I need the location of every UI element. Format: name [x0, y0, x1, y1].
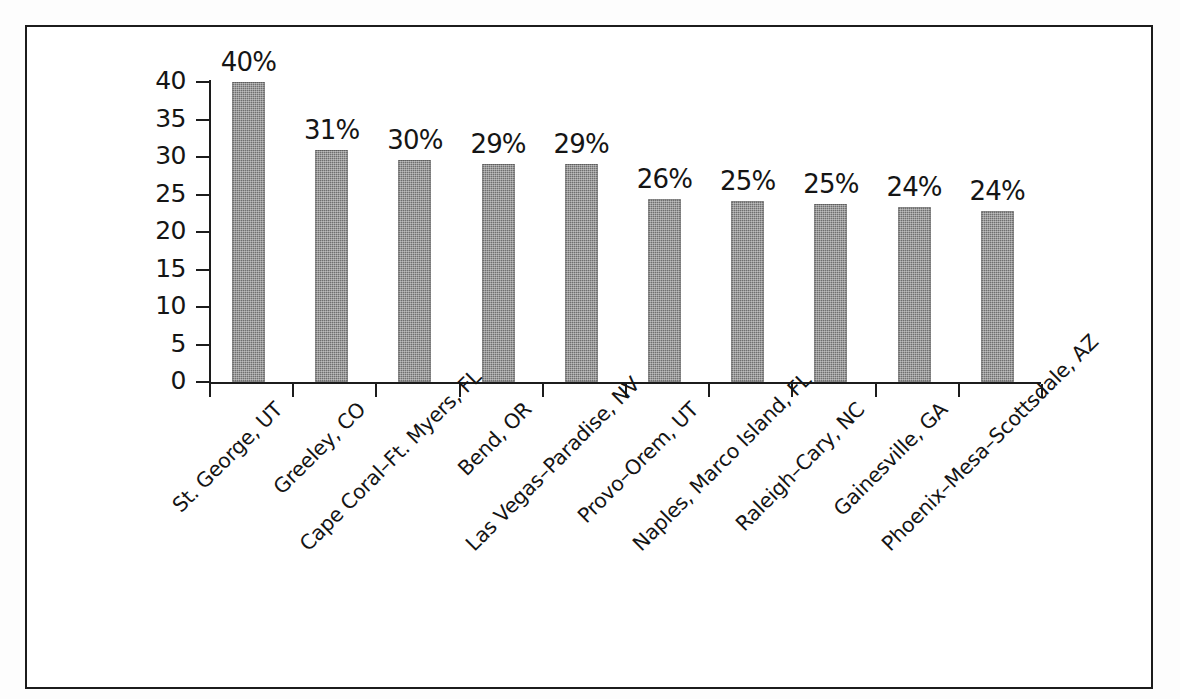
y-axis-tick-label: 5 — [140, 331, 186, 356]
bar — [814, 204, 847, 383]
bar — [482, 164, 515, 382]
y-axis-tick — [196, 231, 210, 233]
x-axis-category-label: Naples, Marco Island, FL — [628, 398, 785, 555]
bar-value-label: 29% — [453, 131, 543, 157]
x-axis-category-label: St. George, UT — [129, 398, 286, 555]
x-axis-tick — [708, 384, 710, 397]
x-axis-category-label: Provo–Orem, UT — [545, 398, 702, 555]
y-axis-tick-label: 0 — [140, 368, 186, 393]
bar — [398, 160, 431, 382]
y-axis-tick — [196, 194, 210, 196]
bar — [315, 150, 348, 383]
x-axis-category-label: Las Vegas–Paradise, NV — [462, 398, 619, 555]
bar-value-label: 30% — [370, 127, 460, 153]
bar — [981, 211, 1014, 382]
x-axis-category-label: Raleigh–Cary, NC — [711, 398, 868, 555]
bar — [648, 199, 681, 382]
x-axis-tick — [292, 384, 294, 397]
x-axis-tick — [375, 384, 377, 397]
x-axis-category-label-text: Bend, OR — [454, 398, 536, 480]
y-axis-tick — [196, 81, 210, 83]
bar-value-label: 24% — [869, 174, 959, 200]
chart-page: 4035302520151050 40%31%30%29%29%26%25%25… — [0, 0, 1180, 699]
y-axis-tick — [196, 119, 210, 121]
x-axis-category-label: Cape Coral–Ft. Myers, FL — [295, 398, 452, 555]
bar-value-label: 40% — [204, 49, 294, 75]
x-axis-category-label-text: Las Vegas–Paradise, NV — [462, 373, 644, 555]
bar — [898, 207, 931, 383]
x-axis-tick — [958, 384, 960, 397]
x-axis-category-label: Phoenix–Mesa–Scottsdale, AZ — [878, 398, 1035, 555]
y-axis-tick — [196, 344, 210, 346]
bar-value-label: 26% — [620, 166, 710, 192]
bar-value-label: 25% — [703, 168, 793, 194]
bar-value-label: 29% — [536, 131, 626, 157]
y-axis-tick-label: 15 — [140, 256, 186, 281]
bar-value-label: 24% — [952, 178, 1042, 204]
bar-value-label: 31% — [287, 117, 377, 143]
x-axis-tick — [875, 384, 877, 397]
y-axis-tick — [196, 381, 210, 383]
y-axis-tick-label: 35 — [140, 106, 186, 131]
x-axis-category-label: Greeley, CO — [212, 398, 369, 555]
bar — [232, 82, 265, 382]
y-axis-tick-label: 30 — [140, 143, 186, 168]
x-axis-tick — [542, 384, 544, 397]
x-axis-tick — [209, 384, 211, 397]
bar — [731, 201, 764, 382]
y-axis-tick-label: 10 — [140, 293, 186, 318]
x-axis-category-label: Bend, OR — [379, 398, 536, 555]
plot-area: 4035302520151050 40%31%30%29%29%26%25%25… — [0, 0, 1180, 699]
y-axis-tick-label: 40 — [140, 68, 186, 93]
y-axis-tick — [196, 306, 210, 308]
y-axis-tick-label: 25 — [140, 181, 186, 206]
y-axis-tick — [196, 269, 210, 271]
bar — [565, 164, 598, 382]
x-axis-category-label: Gainesville, GA — [795, 398, 952, 555]
y-axis-tick-label: 20 — [140, 218, 186, 243]
bar-value-label: 25% — [786, 171, 876, 197]
y-axis-tick — [196, 156, 210, 158]
